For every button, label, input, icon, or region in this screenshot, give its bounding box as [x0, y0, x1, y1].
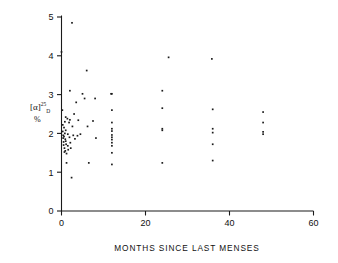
data-point — [94, 98, 96, 100]
data-point — [63, 141, 65, 143]
data-point — [64, 147, 66, 149]
tick-labels-group: 0123450204060 — [48, 12, 318, 228]
data-point — [69, 136, 71, 138]
y-axis-label-units: % — [34, 116, 60, 124]
data-point — [95, 137, 97, 139]
data-point — [72, 126, 74, 128]
data-point — [67, 149, 69, 151]
x-tick-label: 60 — [308, 218, 318, 228]
data-point — [211, 58, 213, 60]
data-point — [82, 93, 84, 95]
data-point — [61, 109, 63, 111]
data-point — [111, 130, 113, 132]
scatter-plot-figure: [α]25D % 0123450204060 MONTHS SINCE LAST… — [0, 0, 338, 263]
data-point — [168, 57, 170, 59]
y-tick-label: 2 — [48, 129, 53, 139]
data-point — [161, 107, 163, 109]
data-point — [84, 98, 86, 100]
data-point — [67, 118, 69, 120]
data-point — [161, 162, 163, 164]
data-point — [161, 128, 163, 130]
y-axis-label-subscript: D — [46, 108, 50, 114]
data-point — [111, 164, 113, 166]
data-point — [111, 93, 113, 95]
data-point — [70, 147, 72, 149]
data-point — [61, 51, 63, 53]
data-point — [66, 162, 68, 164]
data-point — [111, 136, 113, 138]
data-points-group — [61, 22, 264, 179]
data-point — [65, 116, 67, 118]
data-point — [62, 124, 64, 126]
data-point — [68, 122, 70, 124]
data-point — [64, 138, 66, 140]
data-point — [69, 142, 71, 144]
data-point — [62, 131, 64, 133]
ticks-group — [57, 17, 314, 216]
y-axis-label-base: [α] — [30, 102, 41, 112]
plot-canvas: 0123450204060 MONTHS SINCE LAST MENSES — [0, 0, 338, 263]
data-point — [111, 142, 113, 144]
data-point — [63, 127, 65, 129]
data-point — [65, 140, 67, 142]
y-tick-label: 4 — [48, 51, 53, 61]
data-point — [77, 119, 79, 121]
data-point — [62, 137, 64, 139]
x-axis-title: MONTHS SINCE LAST MENSES — [114, 243, 259, 253]
data-point — [74, 138, 76, 140]
data-point — [63, 144, 65, 146]
data-point — [111, 109, 113, 111]
axes-group — [62, 16, 314, 212]
data-point — [92, 120, 94, 122]
data-point — [262, 131, 264, 133]
y-axis-label: [α]25D % — [30, 102, 60, 124]
data-point — [262, 111, 264, 113]
data-point — [64, 121, 66, 123]
data-point — [73, 113, 75, 115]
x-tick-label: 40 — [224, 218, 234, 228]
data-point — [67, 145, 69, 147]
data-point — [111, 139, 113, 141]
y-tick-label: 0 — [48, 206, 53, 216]
data-point — [69, 90, 71, 92]
data-point — [87, 126, 89, 128]
data-point — [212, 132, 214, 134]
data-point — [66, 153, 68, 155]
data-point — [80, 133, 82, 135]
data-point — [65, 143, 67, 145]
data-point — [77, 135, 79, 137]
data-point — [212, 143, 214, 145]
x-tick-label: 20 — [140, 218, 150, 228]
data-point — [67, 133, 69, 135]
data-point — [86, 70, 88, 72]
data-point — [111, 128, 113, 130]
y-tick-label: 1 — [48, 168, 53, 178]
y-axis-label-superscript: 25 — [41, 101, 47, 107]
y-axis-label-rotation: [α]25D — [30, 102, 60, 114]
data-point — [88, 162, 90, 164]
data-point — [212, 128, 214, 130]
data-point — [262, 122, 264, 124]
data-point — [161, 129, 163, 131]
data-point — [75, 102, 77, 104]
data-point — [69, 119, 71, 121]
data-point — [65, 129, 67, 131]
data-point — [111, 122, 113, 124]
data-point — [64, 133, 66, 135]
data-point — [71, 177, 73, 179]
data-point — [71, 22, 73, 24]
data-point — [64, 150, 66, 152]
data-point — [63, 136, 65, 138]
data-point — [111, 152, 113, 154]
data-point — [111, 134, 113, 136]
data-point — [262, 133, 264, 135]
data-point — [111, 145, 113, 147]
y-tick-label: 5 — [48, 12, 53, 22]
y-tick-label: 3 — [48, 90, 53, 100]
data-point — [212, 108, 214, 110]
data-point — [72, 134, 74, 136]
data-point — [161, 90, 163, 92]
x-tick-label: 0 — [59, 218, 64, 228]
data-point — [212, 160, 214, 162]
